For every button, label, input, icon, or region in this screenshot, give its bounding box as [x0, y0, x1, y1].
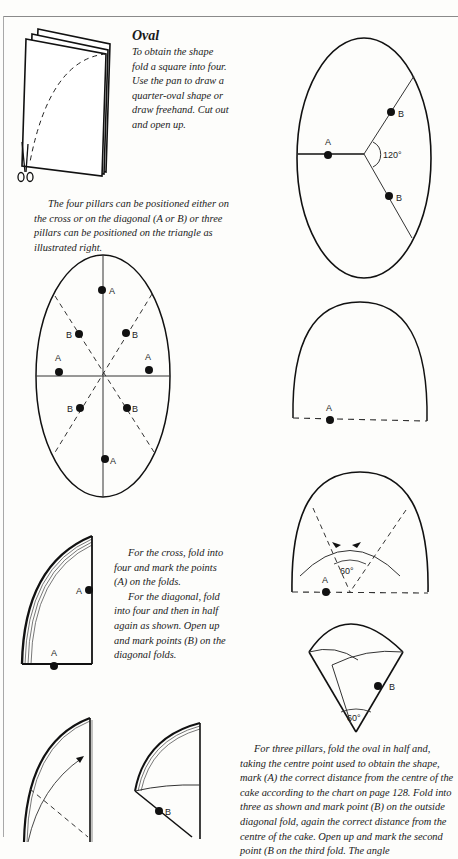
label-b-lower-right: B — [132, 404, 138, 414]
label-a-side: A — [76, 586, 82, 596]
fold-arrow-right-icon — [352, 542, 361, 548]
cone-fold-diagram: B 60° — [306, 614, 406, 734]
angle-arc-120 — [373, 142, 381, 167]
label-b-diagonal: B — [165, 807, 171, 817]
oval-three-pillars-diagram: A B B 120° — [297, 36, 435, 280]
oval-intro-text: To obtain the shape fold a square into f… — [132, 45, 232, 133]
angle-label-60: 60° — [347, 713, 361, 723]
three-pillars-instructions: For three pillars, fold the oval in half… — [240, 742, 456, 859]
angle-label-60: 60° — [340, 566, 354, 576]
angle-arc-60 — [341, 709, 371, 712]
page-frame-left-rule — [3, 16, 4, 837]
label-b-outer-fold: B — [389, 682, 395, 692]
label-a-top: A — [109, 286, 115, 296]
pillars-note-text: The four pillars can be positioned eithe… — [34, 197, 229, 255]
angle-arc-60 — [334, 560, 366, 564]
folded-square-with-scissors-diagram — [10, 24, 120, 184]
cross-diagonal-instructions: For the cross, fold into four and mark t… — [114, 546, 230, 663]
label-b-lower: B — [396, 193, 402, 203]
label-a-left: A — [55, 353, 61, 363]
diagonal-instruction-text: For the diagonal, fold into four and the… — [114, 590, 230, 663]
angle-label-120: 120° — [383, 150, 402, 160]
label-b-upper-left: B — [66, 330, 72, 340]
half-fold-arrow-diagram — [18, 717, 98, 842]
label-b-lower-left: B — [67, 404, 73, 414]
label-b-upper: B — [398, 109, 404, 119]
label-a-base: A — [326, 403, 332, 413]
oval-cross-diagonal-diagram: A A A A B B B B — [36, 254, 174, 498]
diagonal-fold-result-diagram: B — [130, 719, 205, 839]
three-pillars-text: For three pillars, fold the oval in half… — [240, 742, 456, 859]
label-a-bottom: A — [110, 456, 116, 466]
cross-instruction-text: For the cross, fold into four and mark t… — [114, 546, 230, 590]
label-a-base: A — [322, 575, 328, 585]
pillars-positioning-note: The four pillars can be positioned eithe… — [34, 197, 229, 255]
label-a-base: A — [51, 648, 57, 658]
fold-arrow-left-icon — [332, 542, 341, 548]
label-a-right: A — [145, 352, 151, 362]
section-heading: Oval — [132, 28, 159, 44]
page-frame-top-rule — [3, 16, 458, 17]
label-b-upper-right: B — [132, 330, 138, 340]
quarter-fold-cross-diagram: A A — [18, 534, 98, 669]
fold-into-three-diagram: A 60° — [290, 470, 430, 595]
label-a-left: A — [325, 137, 331, 147]
half-oval-diagram: A — [291, 300, 431, 425]
